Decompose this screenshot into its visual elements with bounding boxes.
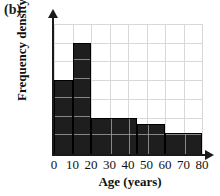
gridline-horizontal xyxy=(55,97,72,98)
gridline-vertical xyxy=(111,119,112,154)
x-axis-tick-labels: 01020304050607080 xyxy=(0,157,220,173)
x-axis-label: Age (years) xyxy=(50,174,210,190)
y-axis-arrow-icon xyxy=(48,9,58,18)
histogram-bar xyxy=(73,43,92,155)
gridline-horizontal xyxy=(74,116,91,117)
x-axis-tick-label: 80 xyxy=(190,157,214,173)
gridline-horizontal xyxy=(74,97,91,98)
histogram-bar xyxy=(54,80,73,155)
y-axis-label: Frequency density xyxy=(14,0,30,110)
gridline-horizontal xyxy=(74,78,91,79)
gridline-horizontal xyxy=(138,134,164,135)
histogram-bar xyxy=(137,124,165,155)
gridline-horizontal xyxy=(74,59,91,60)
gridline-horizontal xyxy=(55,134,72,135)
histogram-bars xyxy=(54,24,202,155)
plot-area xyxy=(54,24,202,155)
gridline-horizontal xyxy=(74,134,91,135)
gridline-horizontal xyxy=(166,134,201,135)
gridline-vertical xyxy=(185,134,186,154)
x-axis-line xyxy=(52,154,207,156)
y-axis-line xyxy=(52,16,54,156)
histogram-bar xyxy=(91,118,137,155)
figure-panel: (b) Frequency density 01020304050607080 … xyxy=(0,0,220,196)
gridline-horizontal xyxy=(55,116,72,117)
gridline-vertical xyxy=(129,119,130,154)
gridline-vertical xyxy=(202,24,203,155)
gridline-vertical xyxy=(148,125,149,154)
histogram-bar xyxy=(165,133,202,155)
